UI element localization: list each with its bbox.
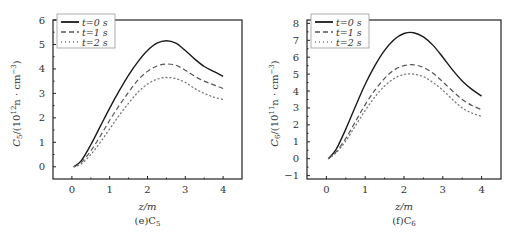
x-tick-label: 4: [220, 184, 226, 195]
y-tick-label: 6: [293, 52, 299, 63]
y-tick-label: 0: [39, 161, 45, 172]
x-tick-label: 1: [107, 184, 113, 195]
x-tick-label: 0: [69, 184, 75, 195]
x-tick-label: 4: [478, 184, 484, 195]
y-tick-label: 3: [39, 88, 45, 99]
y-tick-label: 6: [39, 15, 45, 26]
chart-panel-c5: 012340123456t=0 st=1 st=2 sz/m(e)C5C5/(1…: [10, 14, 242, 228]
series-line-dashed: [328, 65, 481, 159]
series-line-solid: [74, 41, 223, 167]
y-tick-label: 7: [293, 35, 299, 46]
y-tick-label: 4: [39, 63, 45, 74]
series-line-dotted: [74, 77, 223, 166]
y-axis-label: C5/(1012n · cm−3): [10, 60, 24, 146]
y-tick-label: 2: [293, 119, 299, 130]
y-tick-label: −1: [284, 170, 299, 181]
y-tick-label: 1: [39, 137, 45, 148]
x-tick-label: 2: [144, 184, 150, 195]
y-tick-label: 3: [293, 102, 299, 113]
x-tick-label: 1: [362, 184, 368, 195]
figure: 012340123456t=0 st=1 st=2 sz/m(e)C5C5/(1…: [0, 0, 514, 239]
x-tick-label: 2: [401, 184, 407, 195]
x-axis-label: z/m: [394, 201, 413, 212]
series-line-dashed: [74, 64, 223, 167]
x-tick-label: 3: [440, 184, 446, 195]
y-tick-label: 8: [293, 18, 299, 29]
x-tick-label: 0: [323, 184, 329, 195]
y-tick-label: 1: [293, 136, 299, 147]
legend-label: t=2 s: [82, 37, 108, 48]
legend: t=0 st=1 st=2 s: [57, 14, 115, 48]
x-axis-label: z/m: [137, 201, 156, 212]
y-tick-label: 5: [39, 39, 45, 50]
x-tick-label: 3: [182, 184, 188, 195]
panel-caption: (e)C5: [135, 215, 161, 228]
y-tick-label: 4: [293, 86, 299, 97]
y-axis-label: C6/(1011n · cm−3): [268, 60, 282, 146]
panel-caption: (f)C6: [392, 215, 416, 228]
y-tick-label: 0: [293, 153, 299, 164]
series-line-solid: [328, 32, 481, 158]
chart-panel-c6: 01234−1012345678t=0 st=1 st=2 sz/m(f)C6C…: [268, 14, 501, 228]
y-tick-label: 2: [39, 112, 45, 123]
legend: t=0 st=1 st=2 s: [311, 14, 369, 48]
legend-label: t=2 s: [336, 37, 362, 48]
y-tick-label: 5: [293, 69, 299, 80]
